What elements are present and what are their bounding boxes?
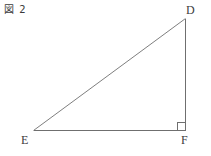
vertex-label-d: D	[186, 4, 195, 16]
edge-hypotenuse-ED	[34, 19, 186, 131]
vertex-label-e: E	[21, 134, 28, 146]
vertex-label-f: F	[181, 134, 188, 146]
triangle-diagram	[0, 0, 211, 156]
figure-canvas: 図 2 D E F	[0, 0, 211, 156]
right-angle-marker-icon	[178, 123, 186, 131]
